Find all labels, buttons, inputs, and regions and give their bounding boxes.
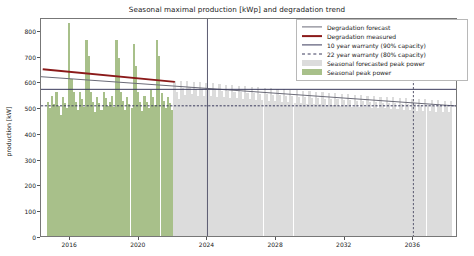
y-tick-mark [37,57,40,58]
y-tick-label: 600 [25,79,36,86]
y-tick-label: 800 [25,27,36,34]
legend-item: Degradation forecast [301,23,463,32]
legend-label: Seasonal peak power [327,68,391,77]
legend-label: Degradation forecast [327,23,390,32]
legend-key-icon [301,41,323,50]
y-tick-label: 200 [25,182,36,189]
y-tick-mark [37,211,40,212]
y-tick-label: 700 [25,53,36,60]
x-tick-mark [275,237,276,240]
legend-item: 10 year warranty (90% capacity) [301,41,463,50]
legend-item: Seasonal peak power [301,68,463,77]
y-tick-label: 300 [25,156,36,163]
legend-key-icon [301,50,323,59]
x-tick-mark [206,237,207,240]
y-axis-label: production [kW] [5,97,12,167]
legend-label: 10 year warranty (90% capacity) [327,41,426,50]
y-tick-mark [37,108,40,109]
y-tick-label: 0 [32,234,36,241]
y-tick-mark [37,185,40,186]
legend-item: Seasonal forecasted peak power [301,59,463,68]
legend-label: 22 year warranty (80% capacity) [327,50,426,59]
legend-label: Degradation measured [327,32,396,41]
y-tick-mark [37,237,40,238]
x-tick-mark [344,237,345,240]
x-tick-label: 2032 [336,241,351,248]
chart-legend: Degradation forecastDegradation measured… [296,19,468,81]
legend-key-icon [301,32,323,41]
legend-label: Seasonal forecasted peak power [327,59,425,68]
trend-line [43,69,175,82]
y-tick-mark [37,160,40,161]
trend-line [41,77,457,106]
x-tick-mark [69,237,70,240]
x-tick-label: 2028 [267,241,282,248]
legend-item: 22 year warranty (80% capacity) [301,50,463,59]
x-tick-mark [138,237,139,240]
x-tick-label: 2024 [199,241,214,248]
y-tick-label: 500 [25,105,36,112]
legend-item: Degradation measured [301,32,463,41]
y-tick-mark [37,134,40,135]
legend-key-icon [301,23,323,32]
y-tick-label: 400 [25,130,36,137]
y-tick-mark [37,31,40,32]
legend-key-icon [301,59,323,68]
x-tick-label: 2016 [62,241,77,248]
y-tick-label: 100 [25,208,36,215]
chart-title: Seasonal maximal production [kWp] and de… [0,5,474,14]
y-tick-mark [37,82,40,83]
x-tick-label: 2036 [405,241,420,248]
x-tick-label: 2020 [130,241,145,248]
chart-figure: Seasonal maximal production [kWp] and de… [0,0,474,256]
x-tick-mark [412,237,413,240]
legend-key-icon [301,68,323,77]
